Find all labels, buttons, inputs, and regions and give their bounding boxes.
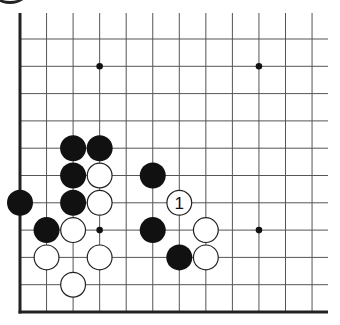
- black-stone: [140, 217, 166, 243]
- go-board-diagram: 1: [0, 0, 340, 325]
- white-stone: [34, 245, 59, 270]
- black-stone: [7, 190, 33, 216]
- star-point-icon: [96, 227, 103, 234]
- white-stone: [87, 163, 112, 188]
- white-stone: [61, 272, 86, 297]
- white-stone: [87, 245, 112, 270]
- white-stone: [193, 218, 218, 243]
- white-stone: [87, 190, 112, 215]
- star-point-icon: [256, 63, 263, 70]
- white-stone: [193, 245, 218, 270]
- black-stone: [60, 163, 86, 189]
- black-stone: [87, 135, 113, 161]
- move-number-label: 1: [175, 194, 184, 213]
- black-stone: [34, 217, 60, 243]
- white-stone: 1: [167, 190, 192, 215]
- black-stone: [60, 135, 86, 161]
- black-stone: [60, 190, 86, 216]
- stones: 1: [7, 135, 218, 297]
- black-stone: [140, 163, 166, 189]
- star-point-icon: [256, 227, 263, 234]
- black-stone: [166, 244, 192, 270]
- white-stone: [61, 218, 86, 243]
- star-point-icon: [96, 63, 103, 70]
